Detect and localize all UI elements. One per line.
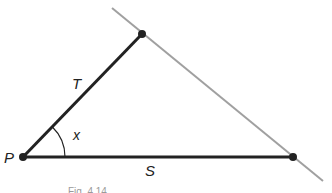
figure-caption: Fig. 4.14	[68, 187, 107, 193]
label-s: S	[145, 163, 155, 178]
vertex-right	[289, 153, 297, 161]
label-x: x	[73, 128, 80, 142]
angle-arc	[52, 127, 65, 157]
vertex-p	[19, 153, 27, 161]
label-t: T	[72, 76, 81, 91]
vertex-top	[138, 30, 146, 38]
triangle-diagram	[0, 0, 332, 193]
side-t	[23, 34, 142, 157]
label-p: P	[4, 150, 14, 165]
